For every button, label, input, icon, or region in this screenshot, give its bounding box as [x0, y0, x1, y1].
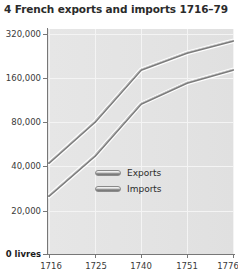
legend-label-exports: Exports: [127, 168, 161, 178]
legend-label-imports: Imports: [127, 184, 162, 194]
x-axis-label-1776: 1776: [217, 261, 238, 271]
x-axis-label-1716: 1716: [40, 261, 62, 271]
chart-container: 4 French exports and imports 1716–79: [0, 0, 238, 280]
legend-swatch-exports-icon: [95, 170, 121, 176]
x-axis-label-1751: 1751: [176, 261, 198, 271]
legend-item-exports: Exports: [95, 166, 161, 179]
x-tick-1776: [233, 254, 234, 258]
x-axis-label-1740: 1740: [130, 261, 152, 271]
y-axis-label-20000: 20,000: [11, 206, 41, 216]
x-tick-1725: [95, 254, 96, 258]
y-tick-40000: [43, 166, 48, 167]
chart-legend: Exports Imports: [95, 166, 181, 200]
y-axis-label-0: 0 livres: [6, 249, 41, 259]
y-axis-label-80000: 80,000: [11, 117, 41, 127]
y-axis-label-40000: 40,000: [11, 161, 41, 171]
y-axis-label-320000: 320,000: [6, 29, 41, 39]
y-axis-line: [47, 28, 48, 255]
x-tick-1740: [141, 254, 142, 258]
y-axis-label-160000: 160,000: [6, 73, 41, 83]
y-tick-160000: [43, 78, 48, 79]
x-tick-1716: [49, 254, 50, 258]
series-layer: [0, 0, 238, 280]
y-tick-80000: [43, 122, 48, 123]
y-tick-20000: [43, 211, 48, 212]
legend-swatch-imports-icon: [95, 186, 121, 192]
x-axis-label-1725: 1725: [85, 261, 107, 271]
legend-item-imports: Imports: [95, 182, 162, 195]
x-tick-1751: [187, 254, 188, 258]
y-tick-0: [43, 254, 48, 255]
y-tick-320000: [43, 34, 48, 35]
